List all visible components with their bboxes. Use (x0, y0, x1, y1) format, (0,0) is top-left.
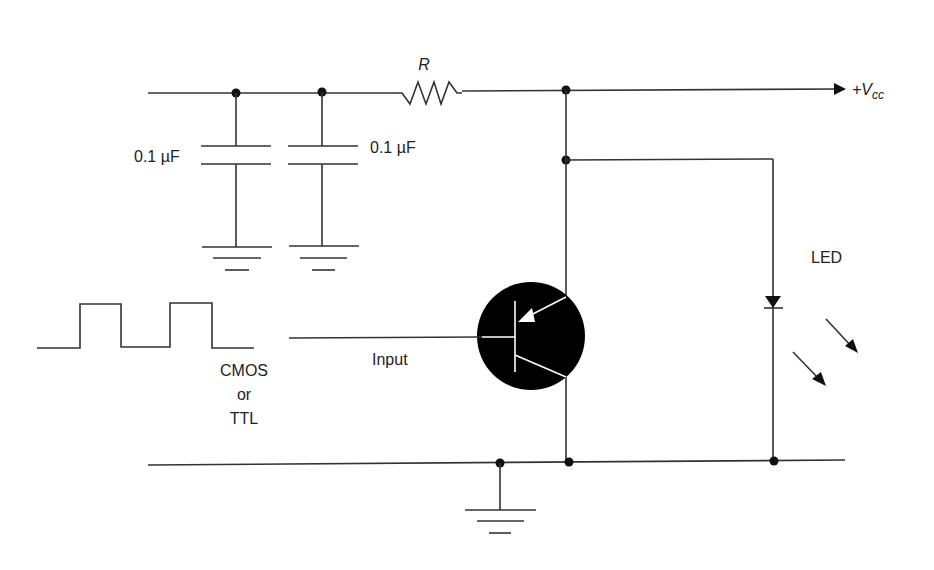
source-label-line1: CMOS (220, 362, 268, 379)
cap1-value-label: 0.1 µF (134, 148, 180, 165)
led-label: LED (811, 249, 842, 266)
vcc-label: +Vcc (852, 81, 884, 102)
led-diode (764, 296, 783, 308)
ground-symbol-icon (465, 463, 536, 533)
square-wave-icon (37, 303, 254, 348)
light-emission-arrows-icon (793, 319, 858, 386)
input-wire (289, 337, 482, 338)
pnp-transistor (477, 282, 585, 390)
circuit-diagram: R +Vcc 0.1 µF 0.1 µF LED Input CMOS or T… (0, 0, 934, 570)
resistor-r (392, 82, 462, 104)
capacitor-c2 (288, 92, 359, 270)
supply-rail (148, 82, 846, 104)
source-label-line3: TTL (230, 410, 259, 427)
junction-node (565, 458, 574, 467)
cap2-value-label: 0.1 µF (370, 139, 416, 156)
capacitor-c1 (201, 93, 272, 270)
source-label-line2: or (237, 386, 252, 403)
resistor-label: R (418, 56, 430, 73)
vcc-arrow-icon (834, 83, 846, 95)
junction-node (770, 457, 779, 466)
input-label: Input (372, 351, 408, 368)
